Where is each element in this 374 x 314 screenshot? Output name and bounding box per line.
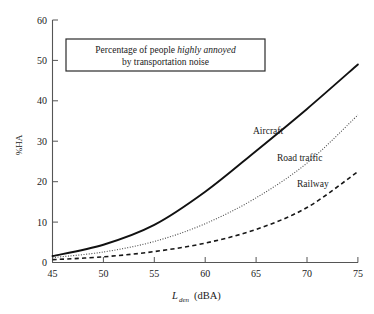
x-axis-title: L den (dBA) xyxy=(171,290,221,304)
y-tick-label-10: 10 xyxy=(37,217,47,228)
y-tick-label-40: 40 xyxy=(37,95,47,106)
y-axis-title: %HA xyxy=(14,134,24,155)
series-label-aircraft: Aircraft xyxy=(253,126,283,136)
y-axis-tick-labels: 0 10 20 30 40 50 60 xyxy=(37,15,47,269)
chart-figure: 0 10 20 30 40 50 60 45 50 55 60 65 70 75 xyxy=(0,0,374,314)
chart-svg: 0 10 20 30 40 50 60 45 50 55 60 65 70 75 xyxy=(0,0,374,314)
x-tick-label-45: 45 xyxy=(48,268,58,279)
title-line-1-emphasis: highly annoyed xyxy=(177,45,236,55)
x-tick-label-50: 50 xyxy=(98,268,108,279)
y-tick-label-20: 20 xyxy=(37,176,47,187)
y-tick-label-0: 0 xyxy=(42,257,47,268)
x-tick-label-65: 65 xyxy=(251,268,261,279)
title-line-2: by transportation noise xyxy=(122,57,209,67)
x-axis-tick-labels: 45 50 55 60 65 70 75 xyxy=(48,268,363,279)
title-line-1-plain: Percentage of people xyxy=(95,45,177,55)
title-line-1: Percentage of people highly annoyed xyxy=(95,45,236,55)
x-axis-title-symbol: L xyxy=(171,290,178,301)
y-tick-label-50: 50 xyxy=(37,55,47,66)
series-label-road-traffic: Road traffic xyxy=(277,153,322,163)
series-annotations: Aircraft Road traffic Railway xyxy=(253,126,329,189)
chart-title-box: Percentage of people highly annoyed by t… xyxy=(66,39,265,71)
y-axis-ticks xyxy=(53,20,59,263)
y-tick-label-30: 30 xyxy=(37,136,47,147)
x-tick-label-75: 75 xyxy=(353,268,363,279)
x-tick-label-60: 60 xyxy=(200,268,210,279)
x-tick-label-55: 55 xyxy=(149,268,159,279)
series-label-railway: Railway xyxy=(297,179,329,189)
x-axis-title-unit: (dBA) xyxy=(194,290,221,302)
x-axis-title-subscript: den xyxy=(179,296,190,304)
y-tick-label-60: 60 xyxy=(37,15,47,26)
x-tick-label-70: 70 xyxy=(302,268,312,279)
